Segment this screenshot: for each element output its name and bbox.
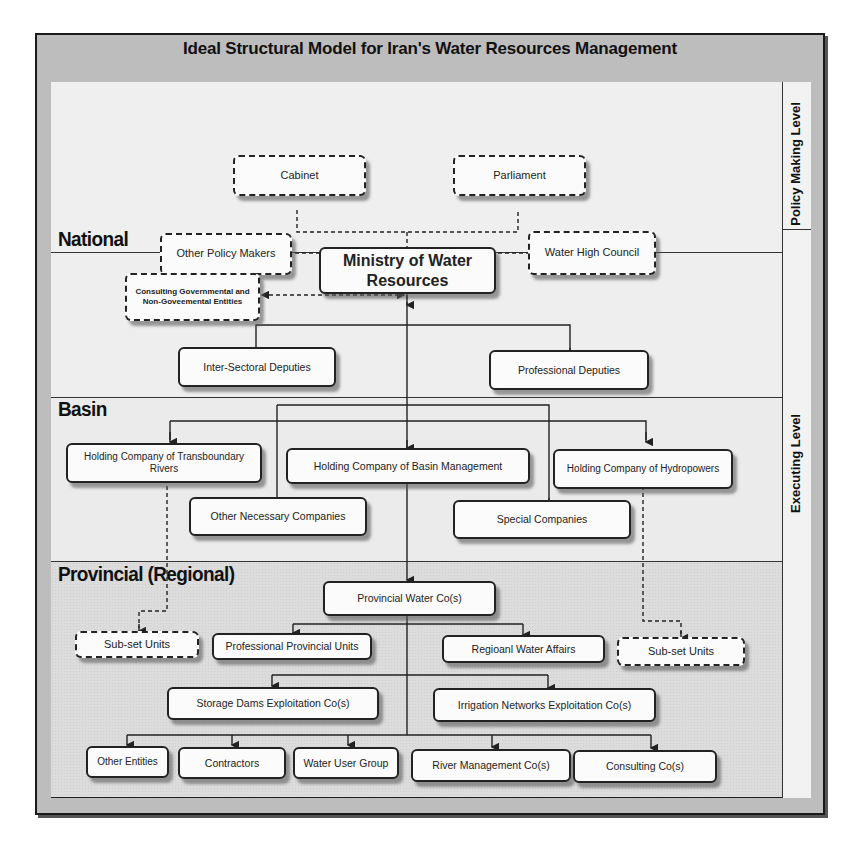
special-companies-box: Special Companies [453,500,631,539]
regional-water-affairs-box: Regioanl Water Affairs [442,635,605,663]
provincial-water-box: Provincial Water Co(s) [323,581,496,616]
hydropowers-box: Holding Company of Hydropowers [553,449,733,489]
cabinet-box: Cabinet [233,155,366,196]
consulting-entities-box: Consulting Governmental and Non-Goveemen… [125,273,260,321]
professional-provincial-units-box: Professional Provincial Units [212,633,372,660]
river-management-box: River Management Co(s) [411,749,571,782]
professional-deputies-box: Professional Deputies [489,350,649,390]
ministry-box: Ministry of Water Resources [319,247,496,294]
storage-dams-box: Storage Dams Exploitation Co(s) [167,687,379,720]
connector-lines [0,0,852,843]
consulting-cos-box: Consulting Co(s) [573,750,717,783]
parliament-box: Parliament [453,155,586,196]
other-entities-box: Other Entities [86,746,169,778]
other-necessary-companies-box: Other Necessary Companies [189,497,367,536]
subset-units-left-box: Sub-set Units [75,631,199,658]
subset-units-right-box: Sub-set Units [617,637,745,666]
water-high-council-box: Water High Council [528,231,656,275]
other-policy-makers-box: Other Policy Makers [160,233,292,275]
contractors-box: Contractors [178,747,286,779]
inter-sectoral-deputies-box: Inter-Sectoral Deputies [178,347,336,387]
water-user-group-box: Water User Group [293,747,399,779]
basin-management-box: Holding Company of Basin Management [286,448,530,484]
irrigation-networks-box: Irrigation Networks Exploitation Co(s) [433,688,656,722]
transboundary-rivers-box: Holding Company of Transboundary Rivers [66,443,262,483]
